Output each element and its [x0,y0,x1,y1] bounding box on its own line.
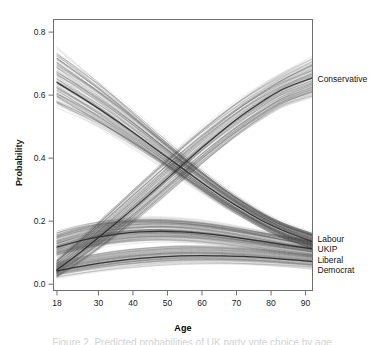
x-tick-label: 60 [197,298,207,308]
figure-container: 18304050607080900.00.20.40.60.8 LabourCo… [0,0,384,345]
x-tick-label: 80 [266,298,276,308]
series-label-liberal-democrat-line1: Liberal [318,255,344,265]
x-axis-title: Age [174,323,192,333]
series-lines-layer [57,47,313,279]
series-label-liberal-democrat-line2: Democrat [318,265,355,275]
x-tick-label: 70 [232,298,242,308]
series-label-conservative: Conservative [318,74,368,84]
chart-canvas: 18304050607080900.00.20.40.60.8 LabourCo… [0,0,384,345]
x-tick-label: 18 [52,298,62,308]
series-label-ukip: UKIP [318,244,338,254]
y-tick-label: 0.2 [34,216,46,226]
figure-caption: Figure 2. Predicted probabilities of UK … [0,337,384,345]
x-tick-label: 90 [301,298,311,308]
x-tick-label: 50 [163,298,173,308]
x-tick-label: 40 [128,298,138,308]
x-tick-label: 30 [94,298,104,308]
y-tick-label: 0.6 [34,90,46,100]
y-tick-label: 0.4 [34,153,46,163]
y-tick-label: 0.8 [34,27,46,37]
series-label-labour: Labour [318,234,345,244]
y-axis-title: Probability [14,139,24,186]
series-labels-layer: LabourConservativeUKIPLiberalDemocrat [318,74,368,275]
y-tick-label: 0.0 [34,279,46,289]
